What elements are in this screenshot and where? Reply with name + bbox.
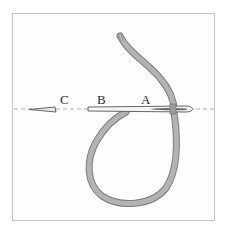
stitch-diagram: C B A bbox=[0, 0, 228, 228]
label-b: B bbox=[97, 92, 106, 107]
needle-tip bbox=[29, 107, 56, 112]
label-c: C bbox=[60, 92, 69, 107]
thread bbox=[89, 33, 176, 204]
label-a: A bbox=[141, 92, 151, 107]
